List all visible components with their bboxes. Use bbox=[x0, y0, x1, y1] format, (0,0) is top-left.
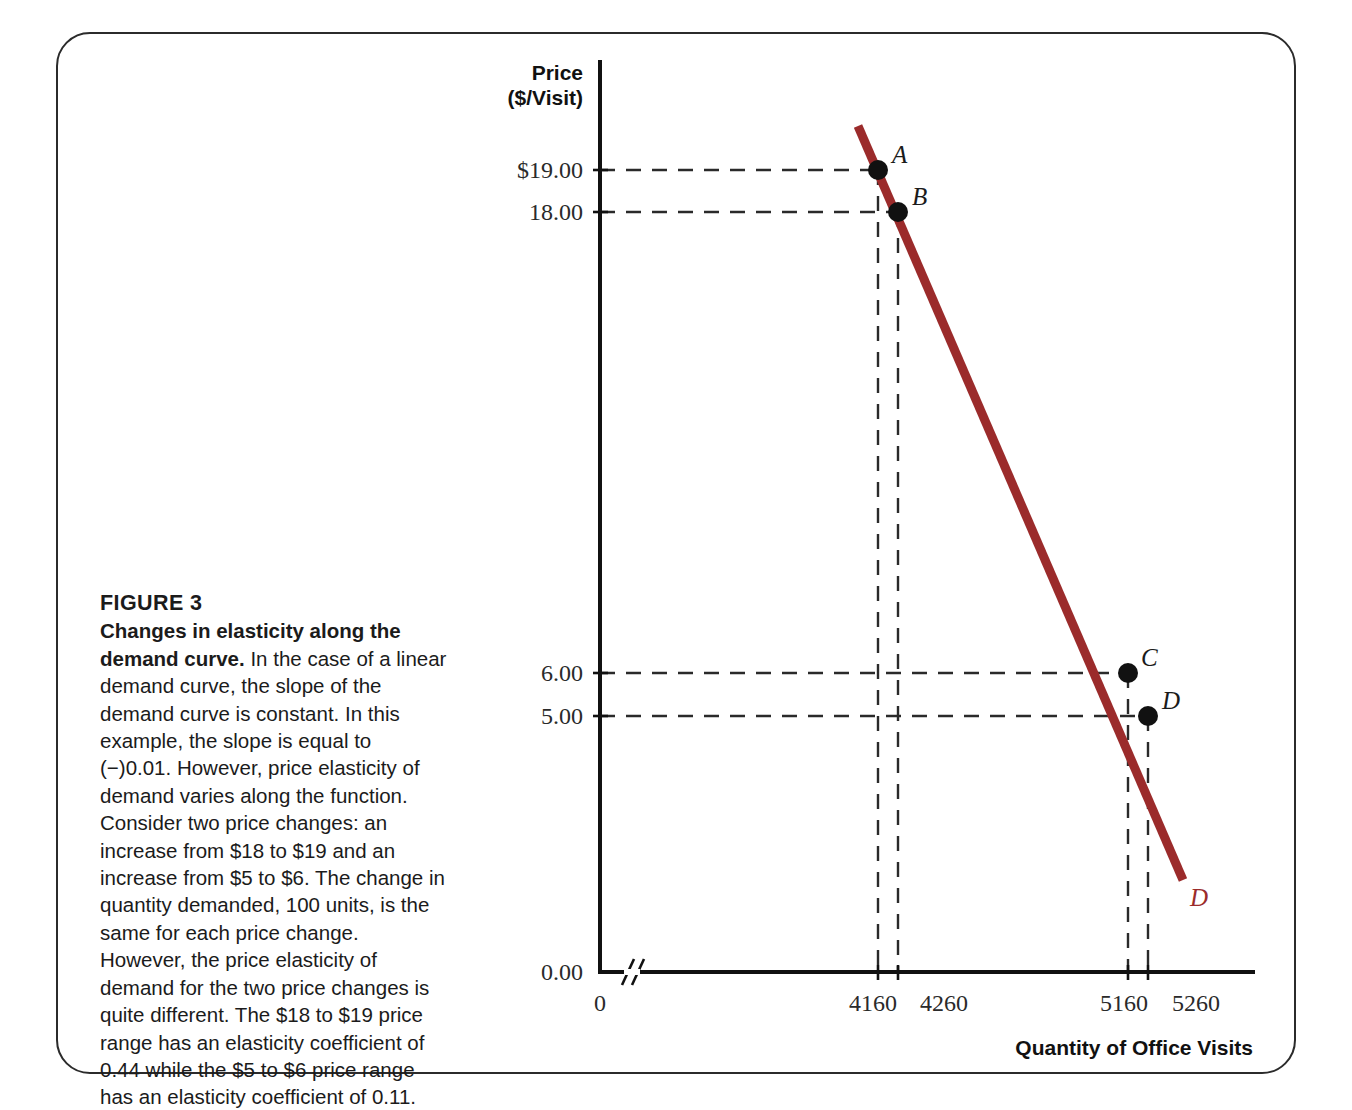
figure-caption: FIGURE 3Changes in elasticity along the … bbox=[100, 590, 448, 1110]
figure-caption-body: In the case of a linear demand curve, th… bbox=[100, 647, 446, 1109]
figure-number: FIGURE 3 bbox=[100, 590, 448, 617]
figure-page: FIGURE 3Changes in elasticity along the … bbox=[0, 0, 1352, 1110]
